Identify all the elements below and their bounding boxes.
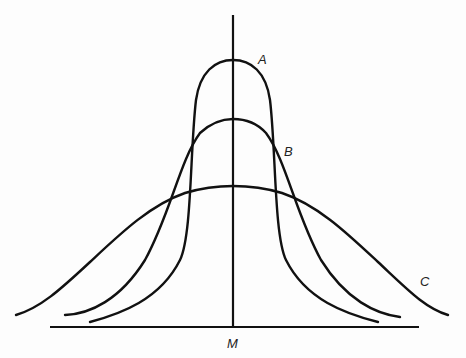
curve-b-label: B (284, 144, 293, 159)
distribution-diagram: A B C M (0, 0, 466, 358)
curve-c-label: C (420, 274, 430, 289)
diagram-canvas: A B C M (0, 0, 466, 358)
curve-a-label: A (257, 52, 267, 67)
mean-label: M (227, 336, 238, 351)
